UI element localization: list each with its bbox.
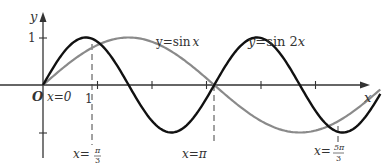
- svg-text:x=: x=: [314, 144, 331, 158]
- x-axis-arrow-icon: [360, 82, 370, 89]
- y-tick-label-1: 1: [28, 31, 36, 45]
- x-zero-label: x=0: [47, 90, 72, 104]
- y-axis-label: y: [29, 9, 38, 24]
- svg-text:5π: 5π: [334, 143, 345, 152]
- x-tick-label-1: 1: [85, 92, 93, 106]
- annotation-5pi-over-3: x= 5π 3: [314, 143, 345, 163]
- x-axis-label: x: [364, 90, 372, 105]
- svg-text:3: 3: [95, 156, 100, 165]
- svg-text:π: π: [94, 146, 101, 155]
- sin2x-label: y=sin 2x: [247, 34, 306, 49]
- y-axis-arrow-icon: [40, 12, 47, 22]
- annotation-pi-over-3: x= π 3: [73, 146, 101, 165]
- intersection-chart: y x O x=0 1 1 y=sinx y=sin 2x x= π 3 x=π…: [0, 0, 391, 168]
- annotation-pi: x=π: [182, 147, 208, 161]
- origin-label: O: [32, 89, 44, 104]
- svg-text:x=: x=: [73, 147, 90, 161]
- sinx-label: y=sinx: [155, 35, 200, 49]
- dashed-guides: [92, 44, 338, 145]
- svg-text:3: 3: [336, 154, 341, 163]
